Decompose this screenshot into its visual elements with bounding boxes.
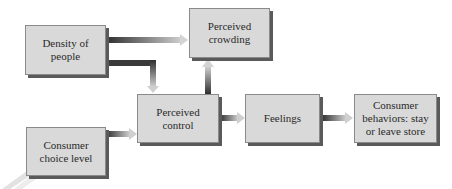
node-label-line: Feelings <box>264 112 301 125</box>
arrow-choice-to-control <box>106 128 137 140</box>
node-consumer-behaviors: Consumer behaviors: stay or leave store <box>354 94 437 143</box>
node-label-line: control <box>156 119 199 132</box>
arrow-density-to-crowding <box>106 34 188 46</box>
node-label-line: Density of <box>42 37 88 50</box>
node-label-line: Consumer <box>40 139 93 152</box>
node-feelings: Feelings <box>245 94 320 143</box>
diagram-canvas: Density of people Perceived crowding Per… <box>0 0 452 189</box>
node-label-line: Perceived <box>156 106 199 119</box>
arrow-control-to-feelings <box>220 112 245 124</box>
node-label-line: Consumer <box>362 99 428 112</box>
arrow-feelings-to-behaviors <box>322 112 353 124</box>
node-perceived-control: Perceived control <box>137 94 219 143</box>
arrow-control-to-crowding <box>202 59 214 94</box>
node-consumer-choice-level: Consumer choice level <box>26 127 106 176</box>
arrow-density-to-control <box>106 60 159 93</box>
node-label-line: people <box>42 50 88 63</box>
node-label-line: crowding <box>208 33 251 46</box>
node-label-line: Perceived <box>208 20 251 33</box>
node-density-of-people: Density of people <box>25 25 106 75</box>
node-perceived-crowding: Perceived crowding <box>189 8 270 58</box>
node-label-line: behaviors: stay <box>362 112 428 125</box>
node-label-line: choice level <box>40 152 93 165</box>
node-label-line: or leave store <box>362 125 428 138</box>
